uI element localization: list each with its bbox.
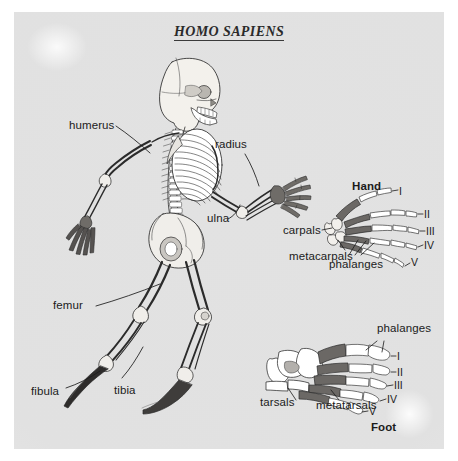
label-metatarsals: metatarsals <box>316 399 377 411</box>
foot-digit-II: II <box>397 366 403 378</box>
hand-digit-I: I <box>399 185 402 197</box>
hand-digit-II: II <box>424 208 430 220</box>
leader-radius <box>245 154 259 186</box>
hand-digit-V: V <box>411 256 418 268</box>
left-arm <box>66 141 151 255</box>
anatomy-figure: HOMO SAPIENS <box>0 0 458 461</box>
tick-foot-III <box>387 385 393 386</box>
hand-digit-III: III <box>426 225 435 237</box>
label-ulna: ulna <box>207 212 229 224</box>
label-fibula: fibula <box>31 385 59 397</box>
label-tarsals: tarsals <box>260 396 295 408</box>
label-radius: radius <box>215 138 247 150</box>
leader-humerus <box>116 126 150 153</box>
label-foot-phalanges: phalanges <box>377 322 431 334</box>
tick-foot-IV <box>380 399 386 401</box>
foot-digit-I: I <box>397 350 400 362</box>
tick-hand-IV <box>418 245 423 247</box>
heading-foot: Foot <box>371 421 396 433</box>
pelvis <box>149 213 204 268</box>
label-femur: femur <box>53 299 83 311</box>
tick-hand-V <box>405 263 410 266</box>
label-humerus: humerus <box>69 119 114 131</box>
hand-carpals <box>325 218 346 245</box>
foot-digit-V: V <box>369 405 376 417</box>
tick-hand-I <box>392 190 398 191</box>
skull <box>160 58 220 131</box>
heading-hand: Hand <box>352 180 381 192</box>
label-hand-phalanges: phalanges <box>329 258 383 270</box>
foot-digit-IV: IV <box>387 393 397 405</box>
label-tibia: tibia <box>114 384 136 396</box>
skeleton-illustration <box>0 0 458 461</box>
foot-digit-III: III <box>394 379 403 391</box>
label-carpals: carpals <box>283 224 321 236</box>
hand-digit-IV: IV <box>424 239 434 251</box>
leader-tibia <box>122 347 143 378</box>
